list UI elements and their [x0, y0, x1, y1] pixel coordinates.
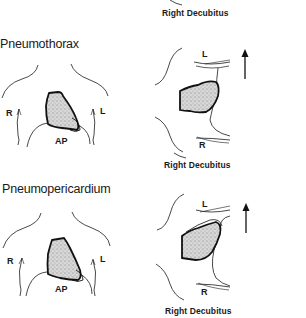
decubitus-top-label: L	[202, 199, 208, 209]
top-caption: Right Decubitus	[162, 8, 229, 18]
panel-title-pneumopericardium: Pneumopericardium	[2, 182, 110, 196]
ap-right-label: R	[6, 108, 13, 118]
up-arrow-icon	[242, 203, 250, 235]
ap-view-label: AP	[55, 136, 68, 146]
ap-view-label: AP	[55, 284, 68, 294]
panel-title-pneumothorax: Pneumothorax	[0, 37, 79, 51]
ap-left-label: L	[100, 106, 106, 116]
ap-left-label: L	[100, 254, 106, 264]
top-partial-stroke	[168, 0, 188, 8]
decubitus-caption-pneumothorax: Right Decubitus	[164, 160, 231, 170]
decubitus-bottom-label: R	[201, 287, 208, 297]
up-arrow-icon	[241, 49, 249, 81]
ap-right-label: R	[7, 256, 14, 266]
decubitus-bottom-label: R	[199, 140, 206, 150]
decubitus-caption-pneumopericardium: Right Decubitus	[165, 306, 232, 316]
decubitus-top-label: L	[202, 49, 208, 59]
